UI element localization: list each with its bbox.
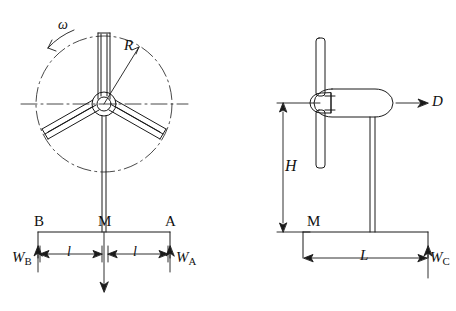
blade-lower-left (42, 100, 99, 139)
side-blade-upper (316, 38, 325, 96)
figure-root: ω R B M A WB WA l l D H M L WC (0, 0, 456, 311)
label-support-m-side: M (307, 214, 320, 229)
blade-lower-right (109, 100, 166, 139)
label-base-length-l: L (360, 248, 368, 263)
label-half-span-left: l (67, 245, 71, 259)
dimension-right-l (108, 246, 168, 262)
label-reaction-wc: WC (430, 250, 450, 266)
label-half-span-right: l (133, 245, 137, 259)
rotation-arrow (48, 30, 74, 51)
blade-up (98, 33, 110, 99)
label-omega: ω (58, 18, 68, 32)
rotor-radius-line (104, 47, 139, 104)
label-support-b: B (34, 214, 44, 229)
label-support-a: A (165, 214, 176, 229)
label-hub-height-h: H (285, 158, 297, 174)
front-centre-load-arrow (100, 232, 108, 292)
label-rotor-radius: R (124, 38, 133, 53)
reaction-arrow-wa (166, 246, 174, 272)
label-support-m-front: M (98, 214, 111, 229)
label-reaction-wb-main: W (12, 249, 25, 265)
side-blade-lower (316, 110, 325, 168)
label-reaction-wc-sub: C (443, 255, 450, 267)
label-thrust-d: D (432, 94, 443, 109)
label-reaction-wa-sub: A (189, 255, 197, 267)
side-rotor-shaft (325, 96, 335, 110)
label-reaction-wc-main: W (430, 249, 443, 265)
label-reaction-wa-main: W (176, 249, 189, 265)
label-reaction-wa: WA (176, 250, 196, 266)
side-tower (370, 117, 375, 232)
dimension-left-l (40, 246, 102, 262)
reaction-arrow-wb (34, 246, 42, 272)
label-reaction-wb-sub: B (25, 255, 32, 267)
turbine-diagram-svg (0, 0, 456, 311)
label-reaction-wb: WB (12, 250, 32, 266)
thrust-arrow-d (396, 99, 428, 107)
